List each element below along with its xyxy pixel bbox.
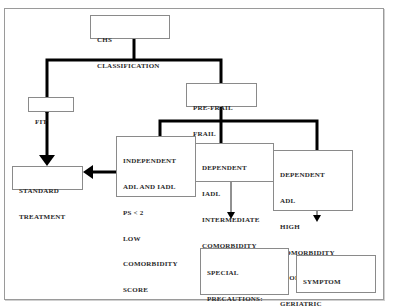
node-text: PRE-FRAIL <box>193 104 250 113</box>
node-text: ADL AND IADL <box>123 183 189 192</box>
node-standard-treatment: STANDARD TREATMENT <box>12 166 83 190</box>
node-text: PRECAUTIONS: <box>207 295 282 304</box>
node-text: CLASSIFICATION <box>97 62 163 71</box>
node-symptom-management: SYMPTOM MANAGEMENT ONLY <box>296 255 376 293</box>
node-text: LOW <box>123 235 189 244</box>
node-text: FRAIL <box>193 130 250 139</box>
node-independent: INDEPENDENT ADL AND IADL PS < 2 LOW COMO… <box>116 136 196 197</box>
node-text: FIT <box>35 118 67 127</box>
node-prefrail-frail: PRE-FRAIL FRAIL <box>186 83 257 107</box>
node-text: COMORBIDITY <box>123 260 189 269</box>
node-chs-classification: CHS CLASSIFICATION <box>90 15 170 39</box>
node-text: PS < 2 <box>123 209 189 218</box>
node-dependent-adl: DEPENDENT ADL HIGH COMORBIDITY SCORE GER… <box>273 150 353 211</box>
node-text: INTERMEDIATE <box>202 216 267 225</box>
node-fit: FIT <box>28 97 74 112</box>
node-text: SYMPTOM <box>303 278 369 287</box>
node-text: STANDARD <box>19 187 76 196</box>
node-text: HIGH <box>280 223 346 232</box>
node-text: DEPENDENT <box>280 171 346 180</box>
node-dependent-iadl: DEPENDENT IADL INTERMEDIATE COMORBIDITY <box>195 143 274 182</box>
node-text: DEPENDENT <box>202 164 267 173</box>
node-text: INDEPENDENT <box>123 157 189 166</box>
node-text: SCORE <box>123 286 189 295</box>
node-text: ADL <box>280 197 346 206</box>
node-text: SPECIAL <box>207 269 282 278</box>
node-special-precautions: SPECIAL PRECAUTIONS: REHAB DOSE REDUCTIO… <box>200 248 289 295</box>
node-text: CHS <box>97 36 163 45</box>
node-text: IADL <box>202 190 267 199</box>
node-text: TREATMENT <box>19 213 76 222</box>
